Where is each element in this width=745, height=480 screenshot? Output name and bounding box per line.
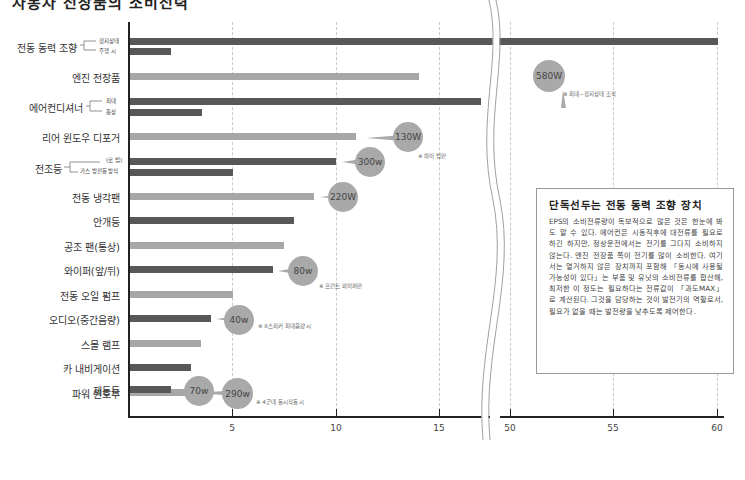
callout-300w-text: 300w (358, 157, 383, 167)
label-wiper: 와이퍼(앞/뒤) (64, 263, 120, 278)
annotation-box: 단독선두는 전동 동력 조향 장치 EPS의 소비전류량이 독보적으로 많은 것… (536, 188, 734, 374)
callout-40w: 40w (224, 305, 254, 335)
callout-220w-text: 220W (330, 192, 356, 202)
callout-tails (176, 90, 566, 396)
label-brake-lamp: 제동등 (93, 383, 120, 398)
callout-40w-text: 40w (230, 315, 249, 325)
label-navi: 카 내비게이션 (63, 361, 120, 376)
label-small-lamp: 스몰 램프 (81, 337, 120, 352)
note-290w: ※ 4군데 동시작동 시 (256, 398, 304, 406)
note-80w: ※ 프런트 와이퍼만 (319, 282, 362, 290)
callout-580w: 580W (533, 60, 565, 92)
callout-580w-text: 580W (536, 71, 562, 81)
callout-70w-text: 70w (190, 386, 209, 396)
note-130w: ※ 하이 빔만 (418, 152, 446, 160)
axis-break-icon (482, 0, 505, 440)
label-blower: 공조 팬(통상) (64, 239, 120, 254)
note-40w: ※ 8스피커 최대음량 시 (258, 322, 311, 330)
label-ac: 에어컨디셔너 (29, 100, 83, 115)
callout-80w: 80w (288, 256, 318, 286)
chart-canvas: 자동차 전장품의 소비전력 5 10 15 50 55 60 (0, 0, 745, 480)
label-engine: 엔진 전장품 (72, 70, 120, 85)
note-580w: ※ 최대~정지상태 조작 (563, 90, 616, 98)
label-audio: 오디오(중간음량) (49, 312, 120, 327)
label-ac-max: 최대 (106, 97, 116, 105)
label-eps-drive: 주행 시 (99, 47, 116, 55)
label-ac-normal: 통상 (106, 108, 116, 116)
callout-70w: 70w (184, 376, 214, 406)
callout-130w-text: 130W (395, 132, 421, 142)
label-headlamp-low: (로 빔) (106, 156, 122, 164)
callout-290w: 290w (222, 378, 253, 409)
label-defogger: 리어 윈도우 디포거 (42, 130, 120, 145)
label-headlamp-hid: 가스 방전등 방식 (80, 167, 119, 175)
label-oil-pump: 전동 오일 펌프 (60, 288, 120, 303)
annotation-heading: 단독선두는 전동 동력 조향 장치 (549, 197, 733, 212)
label-eps: 전동 동력 조향 (17, 40, 77, 55)
callout-290w-text: 290w (225, 389, 250, 399)
callout-300w: 300w (355, 147, 385, 177)
label-headlamp: 전조등 (35, 161, 62, 176)
annotation-body: EPS의 소비전류량이 독보적으로 많은 것은 한눈에 봐도 알 수 있다. 에… (549, 216, 723, 317)
label-cooling-fan: 전동 냉각팬 (72, 190, 120, 205)
callout-220w: 220W (328, 182, 358, 212)
callout-80w-text: 80w (294, 266, 313, 276)
callout-130w: 130W (393, 122, 423, 152)
label-eps-stop: 정지상태 (99, 37, 119, 45)
label-fog-lamp: 안개등 (93, 214, 120, 229)
